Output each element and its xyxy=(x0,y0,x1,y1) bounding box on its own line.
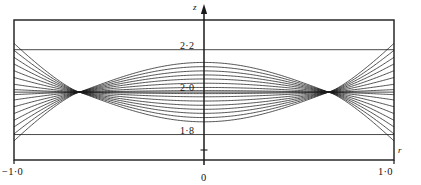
y-tick-label-18: 1·8 xyxy=(180,126,194,136)
y-tick-label-20: 2·0 xyxy=(180,83,194,93)
r-axis-label: r xyxy=(398,146,402,155)
plot-canvas xyxy=(0,0,421,185)
x-tick-label-minus-one: −1·0 xyxy=(2,167,23,178)
y-tick-label-22: 2·2 xyxy=(180,41,194,51)
figure-plot: 2·2 2·0 1·8 −1·0 0 1·0 z r xyxy=(0,0,421,185)
z-axis-label: z xyxy=(193,3,197,12)
x-tick-label-one: 1·0 xyxy=(378,167,393,178)
axis-lines xyxy=(14,4,394,165)
x-tick-label-zero: 0 xyxy=(201,173,207,184)
